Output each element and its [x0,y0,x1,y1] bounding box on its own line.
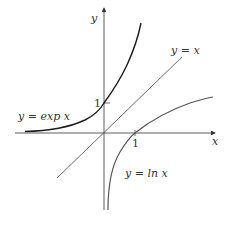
exp-curve-label: y = exp x [17,110,71,123]
identity-line-label: y = x [170,44,200,57]
function-plot: y x 1 1 y = exp x y = x y = ln x [0,0,231,227]
x-axis-label: x [212,135,219,148]
y-tick-label: 1 [94,97,101,110]
ln-curve [108,97,213,210]
plot-canvas: y x 1 1 y = exp x y = x y = ln x [0,0,231,227]
ln-curve-label: y = ln x [124,167,169,180]
x-tick-label: 1 [132,137,139,150]
y-axis-label: y [90,12,98,25]
identity-line [57,57,182,178]
